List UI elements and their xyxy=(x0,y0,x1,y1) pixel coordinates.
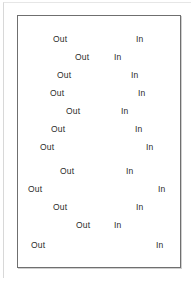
out-label: Out xyxy=(66,102,80,120)
in-label: In xyxy=(114,216,121,234)
out-in-row: OutIn xyxy=(18,48,182,66)
in-label: In xyxy=(158,180,165,198)
out-in-row: OutIn xyxy=(18,198,182,216)
out-label: Out xyxy=(50,84,64,102)
out-label: Out xyxy=(76,216,90,234)
in-label: In xyxy=(121,102,128,120)
in-label: In xyxy=(138,84,145,102)
out-in-row: OutIn xyxy=(18,162,182,180)
out-in-row: OutIn xyxy=(18,102,182,120)
out-label: Out xyxy=(57,66,71,84)
out-in-row: OutIn xyxy=(18,84,182,102)
out-label: Out xyxy=(53,198,67,216)
out-in-row: OutIn xyxy=(18,236,182,254)
out-in-row: OutIn xyxy=(18,66,182,84)
out-in-row: OutIn xyxy=(18,138,182,156)
in-label: In xyxy=(146,138,153,156)
out-in-row: OutIn xyxy=(18,216,182,234)
in-label: In xyxy=(136,198,143,216)
out-in-row: OutIn xyxy=(18,120,182,138)
out-label: Out xyxy=(31,236,45,254)
out-label: Out xyxy=(28,180,42,198)
out-label: Out xyxy=(75,48,89,66)
out-in-row: OutIn xyxy=(18,30,182,48)
in-label: In xyxy=(135,120,142,138)
out-label: Out xyxy=(53,30,67,48)
in-label: In xyxy=(156,236,163,254)
in-label: In xyxy=(131,66,138,84)
out-in-pattern-panel: OutInOutInOutInOutInOutInOutInOutInOutIn… xyxy=(17,15,181,268)
in-label: In xyxy=(114,48,121,66)
out-in-row: OutIn xyxy=(18,180,182,198)
screenshot-canvas: OutInOutInOutInOutInOutInOutInOutInOutIn… xyxy=(0,0,194,281)
in-label: In xyxy=(126,162,133,180)
out-label: Out xyxy=(51,120,65,138)
out-label: Out xyxy=(40,138,54,156)
out-label: Out xyxy=(60,162,74,180)
in-label: In xyxy=(136,30,143,48)
